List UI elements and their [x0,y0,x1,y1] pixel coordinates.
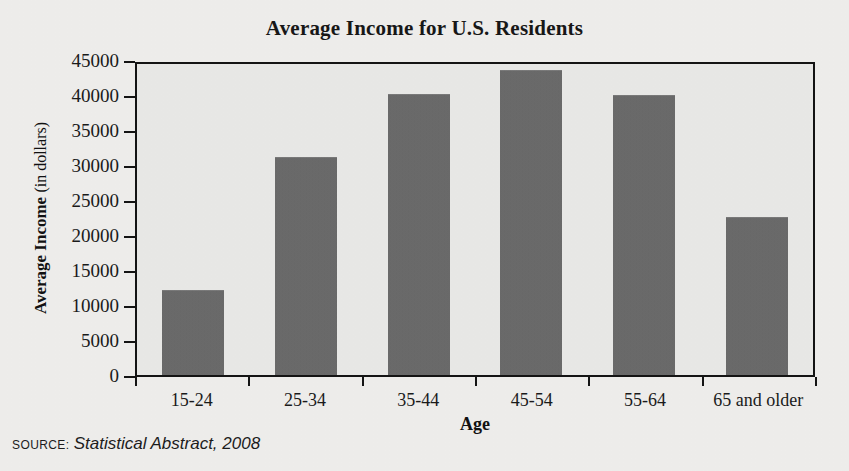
x-axis-tick-mark [475,377,477,386]
x-axis-tick-label: 65 and older [702,390,815,411]
bar [500,70,562,376]
bar-slot [137,64,250,375]
x-axis-title: Age [135,414,815,435]
y-axis-tick-label: 30000 [72,155,120,177]
x-axis-tick-mark [248,377,250,386]
y-axis-tick-mark [124,271,135,273]
x-axis-tick-labels: 15-2425-3435-4445-5455-6465 and older [135,390,815,411]
y-axis-tick-label: 35000 [72,120,120,142]
y-axis-tick-label: 45000 [72,50,120,72]
y-axis: Average Income (in dollars) 450004000035… [0,62,135,377]
y-axis-tick-mark [124,131,135,133]
y-axis-tick-label: 5000 [81,330,119,352]
y-axis-tick-mark [124,166,135,168]
x-axis-tick-label: 55-64 [588,390,701,411]
y-axis-tick-label: 0 [110,365,120,387]
x-axis-tick-mark [362,377,364,386]
x-axis-tick-label: 15-24 [135,390,248,411]
y-axis-tick-mark [124,61,135,63]
x-axis-tick-mark [135,377,137,386]
y-axis-title: Average Income (in dollars) [31,73,51,363]
x-axis-tick-label: 35-44 [362,390,475,411]
chart-title: Average Income for U.S. Residents [0,16,849,41]
bar-chart-figure: Average Income for U.S. Residents Averag… [0,0,849,471]
y-axis-tick-mark [124,96,135,98]
x-axis-tick-mark [815,377,817,386]
y-axis-tick-mark [124,341,135,343]
y-axis-tick-label: 25000 [72,190,120,212]
bar [388,94,450,375]
y-axis-title-unit: (in dollars) [32,122,49,193]
bars-layer [137,64,813,375]
plot-area [135,62,815,377]
bar-slot [475,64,588,375]
y-axis-tick-mark [124,236,135,238]
y-axis-tick-label: 15000 [72,260,120,282]
y-axis-tick-label: 10000 [72,295,120,317]
bar-slot [588,64,701,375]
x-axis-tick-mark [702,377,704,386]
y-axis-tick-mark [124,376,135,378]
bar-slot [362,64,475,375]
x-axis-tick-mark [588,377,590,386]
source-kicker: SOURCE: [12,438,69,452]
y-axis-tick-label: 40000 [72,85,120,107]
bar [613,95,675,375]
y-axis-title-main: Average Income [31,197,50,314]
bar-slot [250,64,363,375]
bar [162,290,224,375]
x-axis-tick-label: 45-54 [475,390,588,411]
source-reference: Statistical Abstract, 2008 [74,434,260,453]
bar [726,217,788,376]
y-axis-tick-mark [124,201,135,203]
bar-slot [700,64,813,375]
x-axis-tick-label: 25-34 [248,390,361,411]
y-axis-tick-mark [124,306,135,308]
x-axis-ticks [135,377,815,386]
y-axis-tick-label: 20000 [72,225,120,247]
bar [275,157,337,375]
source-note: SOURCE: Statistical Abstract, 2008 [12,434,260,454]
